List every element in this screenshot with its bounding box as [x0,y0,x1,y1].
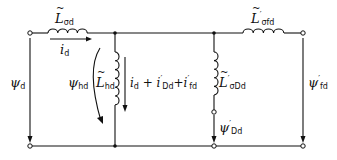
label-l-sigma-dd: L′σDd [219,76,246,91]
inductor-l-sigma-fd [243,29,284,33]
psi-d-arrowhead [28,136,33,143]
label-psi-hd: ψhd [68,76,88,91]
inductor-l-sigma-dd [214,52,218,95]
label-psi-d: ψd [10,76,25,91]
inductor-l-hd [115,52,119,105]
label-psi-dd: ψ′Dd [219,121,242,136]
terminal-fd-top [301,31,305,35]
i-d-arrowhead [86,37,92,42]
label-psi-fd: ψ′fd [308,76,328,91]
psi-dd-arrowhead [212,136,217,143]
inductor-l-sigma-d [48,29,87,33]
node-dd-top [212,31,216,35]
current-sum-arrowhead [123,105,128,112]
terminal-fd-bottom [301,144,305,148]
label-current-sum: id + i′Dd+i′fd [130,76,197,91]
terminal-dd-top [212,110,216,114]
label-l-sigma-fd: L′σfd [251,12,274,27]
terminal-d-top [28,31,32,35]
node-hd-bottom [113,144,117,148]
label-l-sigma-d: Lσd [55,12,74,27]
terminal-d-bottom [28,144,32,148]
label-l-hd: Lhd [96,76,115,91]
label-i-d: id [60,43,69,58]
terminal-dd-bottom [212,144,216,148]
psi-hd-arrowhead [97,116,103,124]
psi-fd-arrowhead [301,136,306,143]
node-hd-top [113,31,117,35]
